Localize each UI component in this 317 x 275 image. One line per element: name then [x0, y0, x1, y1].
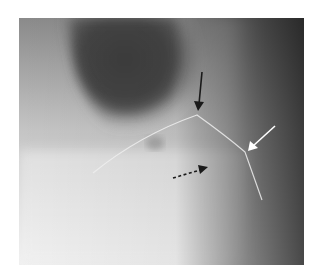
figure-caption	[0, 268, 317, 275]
radiograph-figure	[19, 18, 304, 265]
radiograph-image	[19, 18, 304, 265]
right-dark-band	[19, 18, 304, 265]
